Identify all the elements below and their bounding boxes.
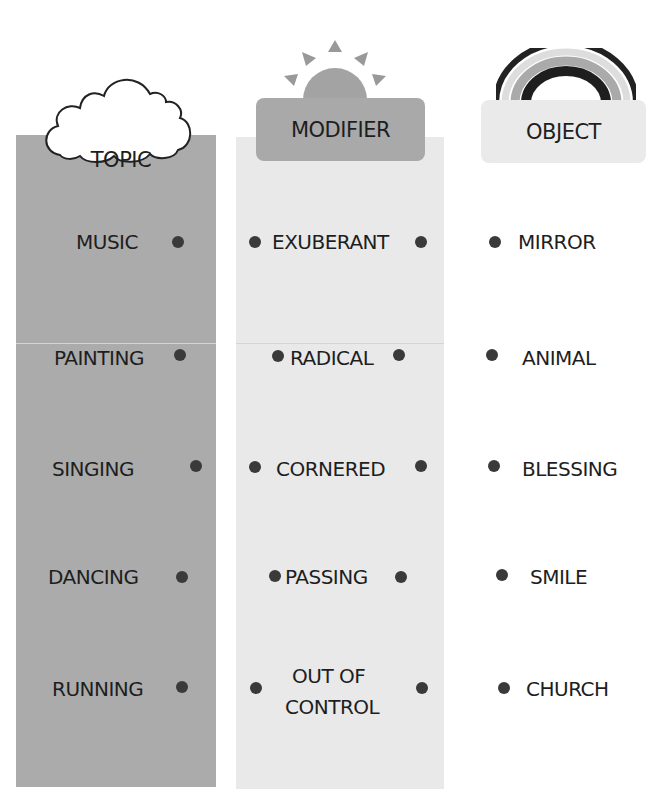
object-dot-blessing[interactable] [488, 460, 500, 472]
modifier-right-dot-out-of-control[interactable] [416, 682, 428, 694]
modifier-item-out-of-control-line1: OUT OF [292, 664, 365, 688]
object-item-blessing: BLESSING [522, 457, 617, 481]
object-item-animal: ANIMAL [522, 346, 596, 370]
object-dot-smile[interactable] [496, 569, 508, 581]
topic-item-running: RUNNING [52, 677, 143, 701]
object-item-smile: SMILE [530, 565, 587, 589]
modifier-right-dot-cornered[interactable] [415, 460, 427, 472]
topic-dot-dancing[interactable] [176, 571, 188, 583]
modifier-item-radical: RADICAL [290, 346, 373, 370]
modifier-right-dot-passing[interactable] [395, 571, 407, 583]
object-dot-animal[interactable] [486, 349, 498, 361]
modifier-right-dot-radical[interactable] [393, 349, 405, 361]
topic-item-singing: SINGING [52, 457, 134, 481]
topic-dot-music[interactable] [172, 236, 184, 248]
topic-item-painting: PAINTING [54, 346, 144, 370]
modifier-item-cornered: CORNERED [276, 457, 385, 481]
topic-item-music: MUSIC [76, 230, 138, 254]
modifier-left-dot-radical[interactable] [272, 350, 284, 362]
rainbow-icon [496, 48, 636, 103]
sun-icon [280, 38, 390, 100]
modifier-header: MODIFIER [256, 118, 425, 142]
topic-dot-singing[interactable] [190, 460, 202, 472]
topic-dot-running[interactable] [176, 681, 188, 693]
modifier-item-out-of-control-line2: CONTROL [285, 695, 379, 719]
topic-item-dancing: DANCING [48, 565, 139, 589]
row-divider [236, 343, 444, 344]
object-header: OBJECT [481, 120, 646, 144]
modifier-item-passing: PASSING [285, 565, 368, 589]
modifier-left-dot-exuberant[interactable] [249, 236, 261, 248]
object-dot-mirror[interactable] [489, 236, 501, 248]
topic-header: TOPIC [66, 148, 176, 172]
object-item-mirror: MIRROR [518, 230, 596, 254]
modifier-right-dot-exuberant[interactable] [415, 236, 427, 248]
object-dot-church[interactable] [498, 682, 510, 694]
object-item-church: CHURCH [526, 677, 609, 701]
modifier-left-dot-out-of-control[interactable] [250, 682, 262, 694]
modifier-item-exuberant: EXUBERANT [272, 230, 389, 254]
topic-dot-painting[interactable] [174, 349, 186, 361]
modifier-left-dot-passing[interactable] [269, 570, 281, 582]
modifier-left-dot-cornered[interactable] [249, 461, 261, 473]
row-divider [16, 343, 216, 344]
